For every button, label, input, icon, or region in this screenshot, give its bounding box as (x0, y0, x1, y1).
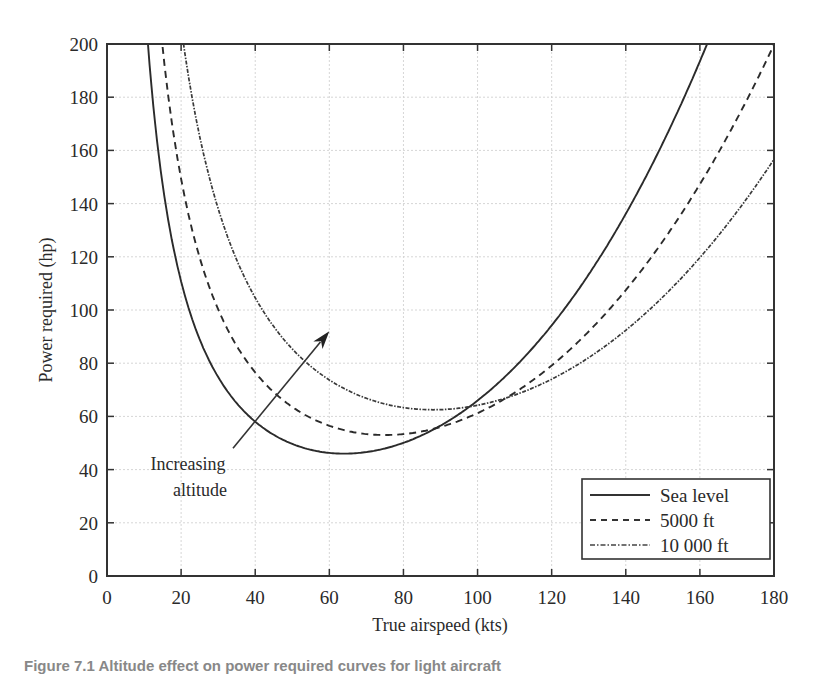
x-tick-label: 60 (320, 587, 339, 608)
curves (148, 27, 774, 454)
legend-label-10000ft: 10 000 ft (660, 535, 729, 556)
arrow-head-icon (313, 331, 329, 349)
figure-caption: Figure 7.1 Altitude effect on power requ… (24, 657, 501, 674)
legend-label-sea-level: Sea level (660, 485, 729, 506)
x-tick-labels: 020406080100120140160180 (102, 587, 788, 608)
x-tick-label: 120 (537, 587, 566, 608)
y-tick-label: 20 (79, 513, 98, 534)
x-tick-label: 40 (246, 587, 265, 608)
y-axis-label: Power required (hp) (36, 238, 57, 383)
y-tick-label: 0 (89, 566, 99, 587)
x-tick-label: 140 (612, 587, 641, 608)
annotation-increasing-altitude: Increasing altitude (151, 331, 330, 500)
y-tick-label: 100 (70, 300, 99, 321)
y-tick-labels: 020406080100120140160180200 (70, 34, 99, 587)
y-tick-label: 140 (70, 194, 99, 215)
y-tick-label: 160 (70, 140, 99, 161)
x-tick-label: 80 (394, 587, 413, 608)
y-tick-label: 80 (79, 353, 98, 374)
x-tick-label: 100 (463, 587, 492, 608)
y-tick-label: 60 (79, 406, 98, 427)
x-axis-label: True airspeed (kts) (372, 615, 507, 636)
x-tick-label: 20 (172, 587, 191, 608)
x-tick-label: 180 (760, 587, 789, 608)
y-tick-label: 200 (70, 34, 99, 55)
x-tick-label: 160 (686, 587, 715, 608)
y-tick-label: 180 (70, 87, 99, 108)
y-tick-label: 120 (70, 247, 99, 268)
legend: Sea level 5000 ft 10 000 ft (582, 479, 770, 559)
legend-label-5000ft: 5000 ft (660, 510, 715, 531)
y-tick-label: 40 (79, 460, 98, 481)
annotation-line2: altitude (173, 480, 227, 500)
x-tick-label: 0 (102, 587, 112, 608)
annotation-line1: Increasing (151, 454, 226, 474)
arrow-line (233, 342, 320, 448)
